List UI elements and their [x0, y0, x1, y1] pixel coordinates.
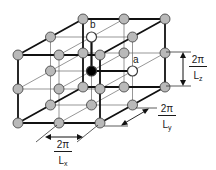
ly-numerator: 2π	[158, 103, 176, 116]
lattice-node	[128, 32, 138, 42]
node-b-open	[87, 32, 97, 42]
lattice-node	[95, 84, 105, 94]
ly-denominator-sub: y	[168, 124, 172, 131]
lattice-node	[87, 100, 97, 110]
lz-denominator-sub: z	[199, 75, 203, 82]
lattice-node	[78, 48, 88, 58]
lattice-node	[119, 48, 129, 58]
lattice-node	[128, 100, 138, 110]
lattice-node	[160, 14, 170, 24]
lx-denominator-sub: x	[64, 160, 68, 167]
k-space-lattice-diagram	[0, 0, 216, 170]
lattice-node	[54, 84, 64, 94]
lattice-node	[160, 48, 170, 58]
lattice-node	[46, 66, 56, 76]
lattice-node	[78, 82, 88, 92]
lx-denominator: Lx	[54, 152, 72, 167]
lattice-node	[46, 32, 56, 42]
lattice-node	[95, 50, 105, 60]
lattice-node	[119, 82, 129, 92]
lx-numerator: 2π	[54, 139, 72, 152]
lattice-node	[13, 84, 23, 94]
lattice-node	[54, 50, 64, 60]
lattice-node	[78, 14, 88, 24]
node-a-open	[128, 66, 138, 76]
lz-label: 2π Lz	[189, 54, 207, 82]
lx-label: 2π Lx	[54, 139, 72, 167]
lz-denominator: Lz	[189, 67, 207, 82]
lattice-node	[160, 82, 170, 92]
lattice-node	[119, 14, 129, 24]
lattice-node	[13, 118, 23, 128]
center-node-filled	[87, 66, 97, 76]
node-label-b: b	[90, 20, 96, 30]
lz-dimension-arrow	[166, 52, 191, 86]
lattice-node	[46, 100, 56, 110]
node-label-a: a	[133, 55, 139, 65]
ly-denominator: Ly	[158, 116, 176, 131]
lattice-node	[13, 50, 23, 60]
lz-numerator: 2π	[189, 54, 207, 67]
ly-label: 2π Ly	[158, 103, 176, 131]
